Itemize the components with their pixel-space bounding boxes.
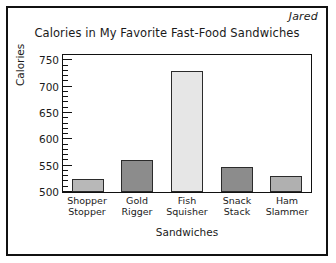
x-tick-label-line: Fish [163, 195, 211, 206]
y-tick-label: 500 [39, 186, 59, 198]
x-tick-label-line: Stopper [63, 206, 111, 217]
y-tick-label: 650 [39, 107, 59, 119]
y-tick-label: 600 [39, 133, 59, 145]
x-axis-title: Sandwiches [62, 226, 312, 238]
bar-fish-squisher[interactable] [171, 71, 203, 192]
x-tick-label-2: FishSquisher [163, 195, 211, 217]
x-tick-label-line: Slammer [263, 206, 311, 217]
x-tick-label-3: SnackStack [213, 195, 261, 217]
bar-slot [165, 55, 210, 192]
bar-slot [65, 55, 110, 192]
chart-title: Calories in My Favorite Fast-Food Sandwi… [8, 26, 326, 40]
x-tick-label-4: HamSlammer [263, 195, 311, 217]
x-tick-label-line: Squisher [163, 206, 211, 217]
y-axis-title: Calories [14, 72, 26, 86]
plot-area: 750700650600550500 [62, 54, 312, 193]
bar-shopper-stopper[interactable] [72, 179, 104, 192]
y-tick-label: 550 [39, 160, 59, 172]
x-tick-label-line: Stack [213, 206, 261, 217]
chart-figure: Jared Calories in My Favorite Fast-Food … [6, 6, 328, 256]
x-tick-label-line: Rigger [113, 206, 161, 217]
bar-slot [214, 55, 259, 192]
y-tick-label: 750 [39, 54, 59, 66]
bar-gold-rigger[interactable] [121, 160, 153, 192]
x-tick-label-0: ShopperStopper [63, 195, 111, 217]
bar-series [63, 55, 311, 192]
y-tick-label: 700 [39, 81, 59, 93]
bar-slot [115, 55, 160, 192]
x-tick-label-line: Shopper [63, 195, 111, 206]
x-axis-tick-labels: ShopperStopperGoldRiggerFishSquisherSnac… [62, 195, 312, 217]
x-tick-label-line: Gold [113, 195, 161, 206]
x-tick-label-1: GoldRigger [113, 195, 161, 217]
bar-ham-slammer[interactable] [270, 176, 302, 192]
student-name-label: Jared [289, 10, 318, 23]
bar-snack-stack[interactable] [221, 167, 253, 192]
x-tick-label-line: Snack [213, 195, 261, 206]
x-tick-label-line: Ham [263, 195, 311, 206]
bar-slot [264, 55, 309, 192]
